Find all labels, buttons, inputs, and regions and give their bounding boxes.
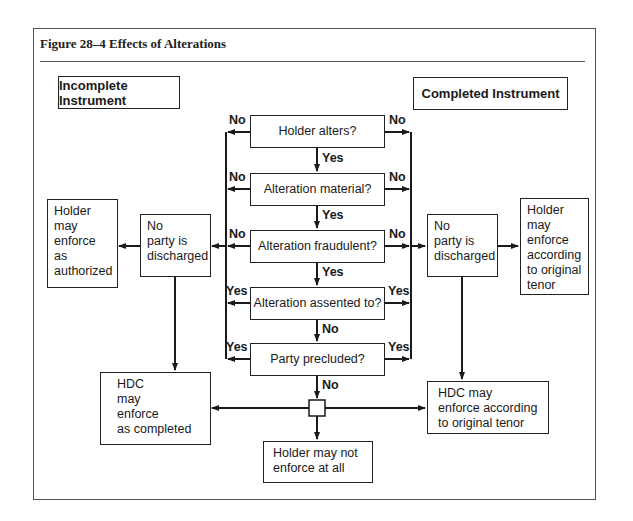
branch-label: No bbox=[229, 227, 246, 241]
completed-instrument-header: Completed Instrument bbox=[413, 77, 568, 110]
branch-label: Yes bbox=[322, 151, 344, 165]
branch-label: Yes bbox=[226, 340, 248, 354]
incomplete-instrument-header: Incomplete Instrument bbox=[58, 76, 180, 109]
branch-label: No bbox=[389, 170, 406, 184]
outcome-holder-enforce-as-authorized: Holder may enforce as authorized bbox=[47, 199, 118, 288]
branch-label: Yes bbox=[322, 265, 344, 279]
outcome-hdc-enforce-original-tenor: HDC may enforce according to original te… bbox=[427, 381, 549, 434]
branch-label: Yes bbox=[226, 284, 248, 298]
branch-label: No bbox=[229, 170, 246, 184]
outcome-right-no-discharge: No party is discharged bbox=[427, 214, 498, 277]
branch-label: Yes bbox=[388, 340, 410, 354]
branch-label: No bbox=[229, 113, 246, 127]
branch-label: Yes bbox=[388, 284, 410, 298]
branch-label: Yes bbox=[322, 208, 344, 222]
decision-holder-alters: Holder alters? bbox=[250, 115, 385, 148]
branch-label: No bbox=[389, 227, 406, 241]
junction-node bbox=[309, 400, 325, 416]
decision-alteration-fraudulent: Alteration fraudulent? bbox=[250, 230, 385, 263]
outcome-left-no-discharge: No party is discharged bbox=[140, 214, 211, 277]
outcome-holder-enforce-original-tenor: Holder may enforce according to original… bbox=[520, 198, 589, 295]
decision-alteration-assented: Alteration assented to? bbox=[250, 287, 385, 320]
outcome-hdc-enforce-as-completed: HDC may enforce as completed bbox=[100, 372, 211, 445]
branch-label: No bbox=[322, 322, 339, 336]
decision-party-precluded: Party precluded? bbox=[250, 343, 385, 376]
outcome-holder-may-not-enforce: Holder may not enforce at all bbox=[263, 441, 373, 483]
branch-label: No bbox=[389, 113, 406, 127]
decision-alteration-material: Alteration material? bbox=[250, 173, 385, 206]
branch-label: No bbox=[322, 378, 339, 392]
